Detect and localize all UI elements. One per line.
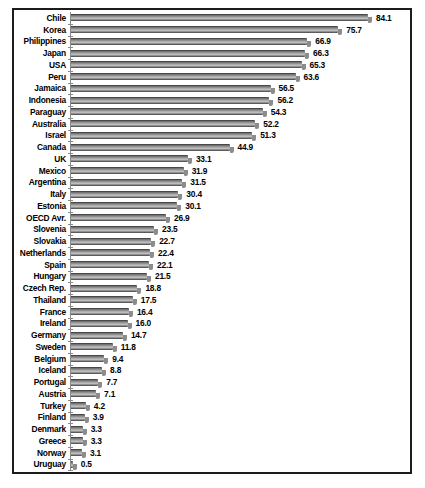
bar xyxy=(71,61,302,68)
bar-track: 4.2 xyxy=(70,400,410,412)
bar-row: Portugal 7.7 xyxy=(14,376,410,388)
bar-row: Japan 66.3 xyxy=(14,47,410,59)
category-label: Spain xyxy=(14,260,70,270)
bar-shadow xyxy=(96,393,100,399)
category-label: Paraguay xyxy=(14,107,70,117)
bar xyxy=(71,50,305,57)
category-label: Norway xyxy=(14,448,70,458)
bar-row: Austria 7.1 xyxy=(14,388,410,400)
value-label: 3.3 xyxy=(91,424,102,434)
bar-row: Spain 22.1 xyxy=(14,259,410,271)
bar-row: Iceland 8.8 xyxy=(14,365,410,377)
bar-shadow xyxy=(82,452,86,458)
bar-shadow xyxy=(73,464,77,470)
bar xyxy=(71,132,252,139)
bar-shadow xyxy=(302,64,306,70)
bar-track: 11.8 xyxy=(70,341,410,353)
value-label: 65.3 xyxy=(310,60,326,70)
bar-row: Indonesia 56.2 xyxy=(14,94,410,106)
bar-shadow xyxy=(269,100,273,106)
bar-track: 51.3 xyxy=(70,130,410,142)
category-label: Netherlands xyxy=(14,248,70,258)
category-label: Turkey xyxy=(14,401,70,411)
bar xyxy=(71,379,98,386)
bar-track: 0.5 xyxy=(70,459,410,471)
bar-shadow xyxy=(307,41,311,47)
value-label: 56.5 xyxy=(279,83,295,93)
category-label: Chile xyxy=(14,13,70,23)
bar xyxy=(71,202,177,209)
bar-shadow xyxy=(296,76,300,82)
value-label: 18.8 xyxy=(145,283,161,293)
bar-track: 22.1 xyxy=(70,259,410,271)
value-label: 16.4 xyxy=(137,307,153,317)
bar-shadow xyxy=(188,158,192,164)
bar-track: 33.1 xyxy=(70,153,410,165)
bar-track: 21.5 xyxy=(70,271,410,283)
value-label: 3.9 xyxy=(93,412,104,422)
category-label: Greece xyxy=(14,436,70,446)
bar-track: 14.7 xyxy=(70,329,410,341)
value-label: 33.1 xyxy=(196,154,212,164)
bar-row: Ireland 16.0 xyxy=(14,318,410,330)
value-label: 63.6 xyxy=(304,72,320,82)
bar-row: Israel 51.3 xyxy=(14,130,410,142)
chart-plot-frame: Chile 84.1 Korea 75.7 Philippines 66.9 J… xyxy=(12,8,412,474)
category-label: Czech Rep. xyxy=(14,283,70,293)
bar-row: Australia 52.2 xyxy=(14,118,410,130)
bar-row: USA 65.3 xyxy=(14,59,410,71)
category-label: Uruguay xyxy=(14,459,70,469)
value-label: 17.5 xyxy=(141,295,157,305)
bar-row: Sweden 11.8 xyxy=(14,341,410,353)
bar-shadow xyxy=(149,264,153,270)
bar-track: 56.5 xyxy=(70,83,410,95)
bar-shadow xyxy=(271,88,275,94)
bar xyxy=(71,426,83,433)
bar-track: 26.9 xyxy=(70,212,410,224)
bar-shadow xyxy=(123,335,127,341)
bar-row: Korea 75.7 xyxy=(14,24,410,36)
bar-row: Belgium 9.4 xyxy=(14,353,410,365)
bar xyxy=(71,390,96,397)
category-label: Denmark xyxy=(14,424,70,434)
bar-shadow xyxy=(230,147,234,153)
bar-shadow xyxy=(150,252,154,258)
category-label: Slovakia xyxy=(14,236,70,246)
bar-track: 23.5 xyxy=(70,224,410,236)
category-label: Iceland xyxy=(14,365,70,375)
bar-shadow xyxy=(177,205,181,211)
bar-track: 17.5 xyxy=(70,294,410,306)
bar-shadow xyxy=(305,53,309,59)
bar xyxy=(71,249,150,256)
category-label: Estonia xyxy=(14,201,70,211)
category-label: Indonesia xyxy=(14,95,70,105)
category-label: Mexico xyxy=(14,166,70,176)
bar-track: 44.9 xyxy=(70,141,410,153)
category-label: Canada xyxy=(14,142,70,152)
bar-shadow xyxy=(255,123,259,129)
bar xyxy=(71,144,230,151)
value-label: 66.3 xyxy=(313,48,329,58)
bar xyxy=(71,332,123,339)
bar xyxy=(71,120,255,127)
bar xyxy=(71,179,182,186)
bar-track: 75.7 xyxy=(70,24,410,36)
bar-track: 16.4 xyxy=(70,306,410,318)
bar-shadow xyxy=(252,135,256,141)
value-label: 31.9 xyxy=(192,166,208,176)
bar-row: Philippines 66.9 xyxy=(14,36,410,48)
bar-chart: Chile 84.1 Korea 75.7 Philippines 66.9 J… xyxy=(0,0,425,488)
bar-row: Netherlands 22.4 xyxy=(14,247,410,259)
value-label: 9.4 xyxy=(112,354,123,364)
category-label: Ireland xyxy=(14,318,70,328)
bar-track: 3.3 xyxy=(70,423,410,435)
value-label: 30.1 xyxy=(185,201,201,211)
value-label: 3.3 xyxy=(91,436,102,446)
bar-row: Norway 3.1 xyxy=(14,447,410,459)
category-label: Germany xyxy=(14,330,70,340)
bar xyxy=(71,167,184,174)
bar-track: 31.9 xyxy=(70,165,410,177)
bar-shadow xyxy=(137,288,141,294)
value-label: 56.2 xyxy=(277,95,293,105)
value-label: 8.8 xyxy=(110,365,121,375)
